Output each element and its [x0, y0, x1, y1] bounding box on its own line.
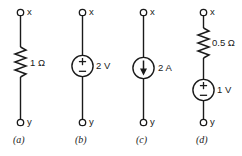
- circuit-b-caption: (b): [75, 135, 87, 145]
- circuit-a-drawing: [0, 0, 242, 156]
- circuit-d-terminal-x-label: x: [210, 7, 215, 17]
- circuit-b-terminal-x-node: [79, 9, 85, 15]
- circuit-b-terminal-x-label: x: [89, 7, 94, 17]
- circuit-a-terminal-y-label: y: [27, 117, 32, 127]
- circuit-c-terminal-x-label: x: [150, 7, 155, 17]
- circuit-b-terminal-y-label: y: [89, 117, 94, 127]
- circuit-b-source-value-label: 2 V: [96, 61, 110, 71]
- circuit-a-terminal-y-node: [17, 119, 23, 125]
- circuit-d-terminal-x-node: [200, 9, 206, 15]
- circuit-b-terminal-y-node: [79, 119, 85, 125]
- circuit-a-resistor-zigzag: [15, 47, 26, 77]
- circuit-a-resistor-value-label: 1 Ω: [30, 58, 45, 68]
- circuit-c-terminal-x-node: [140, 9, 146, 15]
- circuit-d-source-value-label: 1 V: [217, 85, 231, 95]
- circuit-d-resistor-zigzag: [198, 28, 209, 58]
- circuit-c-terminal-y-label: y: [150, 117, 155, 127]
- circuit-figure: x 1 Ω y (a) x 2 V y (b) x 2 A y (c) x 0.…: [0, 0, 242, 156]
- circuit-d-resistor-value-label: 0.5 Ω: [212, 38, 235, 48]
- circuit-a-terminal-x-label: x: [27, 7, 32, 17]
- circuit-d-terminal-y-node: [200, 119, 206, 125]
- circuit-a-caption: (a): [13, 135, 25, 145]
- circuit-c-terminal-y-node: [140, 119, 146, 125]
- circuit-c-caption: (c): [136, 135, 147, 145]
- circuit-d-terminal-y-label: y: [210, 117, 215, 127]
- circuit-c-source-value-label: 2 A: [158, 63, 172, 73]
- circuit-d-caption: (d): [196, 135, 208, 145]
- circuit-a-terminal-x-node: [17, 9, 23, 15]
